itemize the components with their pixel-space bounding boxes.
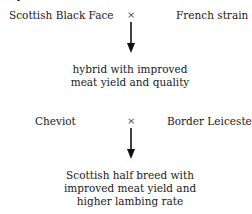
cropped-glyph-fragment (17, 0, 20, 1)
cross2-cross-symbol: × (127, 115, 135, 126)
cross1-offspring-line-1: hybrid with improved (60, 63, 200, 76)
cross1-left-parent: Scottish Black Face (9, 9, 114, 22)
cross2-offspring-line-2: improved meat yield and (55, 182, 205, 195)
cross1-offspring-line-2: meat yield and quality (60, 76, 200, 89)
cross2-offspring-line-1: Scottish half breed with (55, 169, 205, 182)
cross2-arrow-icon (126, 128, 136, 160)
cross2-right-parent: Border Leicester (167, 115, 252, 128)
cross2-left-parent: Cheviot (35, 115, 76, 128)
cross1-arrow-icon (126, 22, 136, 54)
cross2-offspring-line-3: higher lambing rate (55, 195, 205, 208)
cross1-right-parent: French strain (176, 9, 248, 22)
cross1-cross-symbol: × (127, 9, 135, 20)
